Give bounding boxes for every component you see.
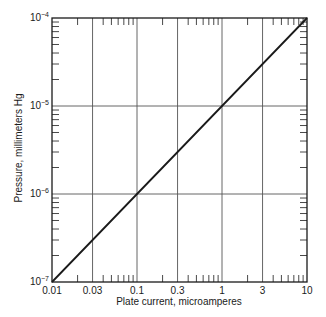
x-tick-label: 0.03 xyxy=(83,285,103,296)
x-tick-label: 0.1 xyxy=(130,285,144,296)
x-tick-label: 10 xyxy=(301,285,313,296)
x-axis-label: Plate current, microamperes xyxy=(116,296,242,307)
x-tick-label: 0.01 xyxy=(42,285,62,296)
y-tick-label: 10−4 xyxy=(30,11,49,23)
y-tick-label: 10−6 xyxy=(30,187,49,199)
x-tick-label: 0.3 xyxy=(171,285,185,296)
x-tick-label: 1 xyxy=(219,285,225,296)
y-axis-label: Pressure, millimeters Hg xyxy=(13,94,24,203)
data-line xyxy=(52,18,307,282)
x-tick-label: 3 xyxy=(260,285,266,296)
y-tick-label: 10−5 xyxy=(30,99,49,111)
log-log-chart: 0.010.030.10.3131010−710−610−510−4 xyxy=(0,0,326,317)
